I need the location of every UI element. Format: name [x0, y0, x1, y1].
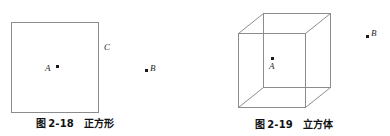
- figure-2-18-panel: A C B 图2-18正方形: [0, 0, 195, 136]
- figure-page: A C B 图2-18正方形 A B 图: [0, 0, 390, 136]
- figure-2-19-caption: 图2-19立方体: [255, 119, 334, 131]
- point-label-b-cube: B: [371, 29, 377, 38]
- caption-name: 正方形: [84, 118, 115, 129]
- caption-prefix: 图: [36, 118, 46, 129]
- cube-edge-bottom-left: [239, 88, 264, 108]
- point-dot-b-cube: [366, 35, 369, 38]
- square-outline: [12, 23, 99, 113]
- caption-number: 2-19: [267, 119, 293, 130]
- point-dot-a-square: [56, 65, 59, 68]
- point-dot-a-cube: [271, 57, 274, 60]
- figure-2-19-panel: A B 图2-19立方体: [195, 0, 390, 136]
- caption-prefix: 图: [255, 119, 265, 130]
- cube-back-face: [264, 14, 331, 88]
- cube-edge-bottom-right: [306, 88, 331, 108]
- caption-number: 2-18: [48, 118, 74, 129]
- point-label-a-square: A: [45, 64, 51, 73]
- caption-name: 立方体: [303, 119, 334, 130]
- point-label-c-square: C: [104, 43, 110, 52]
- cube-edge-top-right: [306, 14, 331, 34]
- cube-diagram: [195, 0, 390, 120]
- square-diagram: [0, 0, 195, 120]
- point-dot-b-square: [145, 69, 148, 72]
- figure-2-18-caption: 图2-18正方形: [36, 118, 115, 130]
- cube-edge-top-left: [239, 14, 264, 34]
- point-label-b-square: B: [150, 64, 156, 73]
- point-label-a-cube: A: [269, 62, 275, 71]
